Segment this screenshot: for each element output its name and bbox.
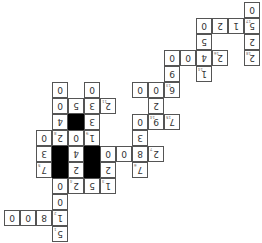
cell-digit: 8 bbox=[133, 147, 147, 161]
clue-number: 6 bbox=[134, 163, 137, 167]
grid-cell[interactable]: 8 bbox=[36, 210, 52, 226]
cell-digit: 0 bbox=[133, 83, 147, 97]
cell-digit: 3 bbox=[37, 147, 51, 161]
grid-cell[interactable]: 4 bbox=[196, 50, 212, 66]
grid-cell[interactable]: 27 bbox=[148, 146, 164, 162]
cell-digit: 5 bbox=[85, 179, 99, 193]
clue-number: 18 bbox=[246, 51, 251, 55]
cell-digit: 3 bbox=[85, 99, 99, 113]
grid-cell[interactable]: 914 bbox=[148, 114, 164, 130]
grid-cell[interactable]: 0 bbox=[244, 2, 260, 18]
cell-digit: 0 bbox=[53, 83, 67, 97]
clue-number: 4 bbox=[70, 179, 73, 183]
grid-cell[interactable]: 0 bbox=[68, 130, 84, 146]
cell-digit: 0 bbox=[245, 3, 259, 17]
grid-cell[interactable]: 3 bbox=[84, 114, 100, 130]
cell-digit: 0 bbox=[37, 131, 51, 145]
cell-digit: 0 bbox=[53, 195, 67, 209]
grid-cell[interactable]: 2 bbox=[100, 162, 116, 178]
grid-cell[interactable]: 0 bbox=[132, 114, 148, 130]
grid-cell[interactable]: 0 bbox=[148, 82, 164, 98]
clue-number: 14 bbox=[198, 67, 203, 71]
grid-cell[interactable]: 2 bbox=[244, 34, 260, 50]
cell-digit: 0 bbox=[133, 115, 147, 129]
grid-cell[interactable]: 19 bbox=[84, 130, 100, 146]
cell-digit: 0 bbox=[85, 83, 99, 97]
clue-number: 11 bbox=[102, 99, 107, 103]
grid-cell[interactable]: 0 bbox=[116, 146, 132, 162]
grid-cell[interactable]: 0 bbox=[52, 194, 68, 210]
clue-number: 9 bbox=[86, 131, 89, 135]
clue-number: 2 bbox=[54, 211, 57, 215]
cell-digit: 0 bbox=[181, 51, 195, 65]
clue-number: 16 bbox=[214, 51, 219, 55]
grid-cell[interactable]: 2 bbox=[148, 98, 164, 114]
grid-cell[interactable]: 0 bbox=[36, 130, 52, 146]
grid-cell[interactable]: 218 bbox=[244, 50, 260, 66]
grid-cell[interactable]: 4 bbox=[52, 114, 68, 130]
grid-cell[interactable]: 75 bbox=[36, 162, 52, 178]
grid-cell[interactable]: 2 bbox=[68, 162, 84, 178]
cell-digit: 0 bbox=[53, 99, 67, 113]
grid-cell[interactable]: 0 bbox=[52, 178, 68, 194]
grid-cell[interactable]: 211 bbox=[100, 98, 116, 114]
grid-cell[interactable]: 0 bbox=[52, 82, 68, 98]
block-cell bbox=[52, 162, 68, 178]
cell-digit: 0 bbox=[149, 83, 163, 97]
grid-cell[interactable]: 13 bbox=[100, 178, 116, 194]
grid-cell[interactable]: 517 bbox=[244, 18, 260, 34]
cell-digit: 0 bbox=[197, 19, 211, 33]
cell-digit: 3 bbox=[85, 115, 99, 129]
cell-digit: 0 bbox=[53, 179, 67, 193]
cell-digit: 2 bbox=[245, 35, 259, 49]
grid-cell[interactable]: 0 bbox=[4, 210, 20, 226]
grid-cell[interactable]: 0 bbox=[132, 82, 148, 98]
cell-digit: 0 bbox=[21, 211, 35, 225]
clue-number: 15 bbox=[166, 115, 171, 119]
cell-digit: 0 bbox=[101, 147, 115, 161]
grid-cell[interactable]: 76 bbox=[132, 162, 148, 178]
grid-cell[interactable]: 0 bbox=[84, 82, 100, 98]
block-cell bbox=[52, 146, 68, 162]
cell-digit: 2 bbox=[149, 99, 163, 113]
grid-cell[interactable]: 114 bbox=[196, 66, 212, 82]
cell-digit: 0 bbox=[5, 211, 19, 225]
grid-cell[interactable]: 0 bbox=[20, 210, 36, 226]
grid-cell[interactable]: 5 bbox=[84, 178, 100, 194]
grid-cell[interactable]: 5 bbox=[196, 34, 212, 50]
block-cell bbox=[68, 114, 84, 130]
clue-number: 8 bbox=[54, 131, 57, 135]
grid-cell[interactable]: 24 bbox=[68, 178, 84, 194]
grid-cell[interactable]: 2 bbox=[212, 18, 228, 34]
grid-cell[interactable]: 0 bbox=[164, 50, 180, 66]
clue-number: 5 bbox=[38, 163, 41, 167]
grid-cell[interactable]: 715 bbox=[164, 114, 180, 130]
grid-cell[interactable]: 1 bbox=[228, 18, 244, 34]
cell-digit: 5 bbox=[197, 35, 211, 49]
block-cell bbox=[84, 162, 100, 178]
block-cell bbox=[84, 146, 100, 162]
cell-digit: 2 bbox=[213, 19, 227, 33]
grid-cell[interactable]: 0 bbox=[196, 18, 212, 34]
grid-cell[interactable]: 12 bbox=[52, 210, 68, 226]
grid-cell[interactable]: 28 bbox=[52, 130, 68, 146]
crossword-board: 0021517520042162189114000061305321124309… bbox=[0, 0, 262, 243]
grid-cell[interactable]: 3 bbox=[132, 130, 148, 146]
clue-number: 13 bbox=[166, 83, 171, 87]
cell-digit: 8 bbox=[37, 211, 51, 225]
clue-number: 1 bbox=[54, 227, 57, 231]
grid-cell[interactable]: 8 bbox=[132, 146, 148, 162]
grid-cell[interactable]: 51 bbox=[52, 226, 68, 242]
grid-cell[interactable]: 5 bbox=[68, 98, 84, 114]
grid-cell[interactable]: 9 bbox=[164, 66, 180, 82]
grid-cell[interactable]: 0 bbox=[100, 146, 116, 162]
grid-cell[interactable]: 3 bbox=[84, 98, 100, 114]
grid-cell[interactable]: 216 bbox=[212, 50, 228, 66]
grid-cell[interactable]: 4 bbox=[68, 146, 84, 162]
grid-cell[interactable]: 3 bbox=[36, 146, 52, 162]
grid-cell[interactable]: 0 bbox=[52, 98, 68, 114]
cell-digit: 5 bbox=[69, 99, 83, 113]
grid-cell[interactable]: 613 bbox=[164, 82, 180, 98]
grid-cell[interactable]: 0 bbox=[180, 50, 196, 66]
clue-number: 3 bbox=[102, 179, 105, 183]
